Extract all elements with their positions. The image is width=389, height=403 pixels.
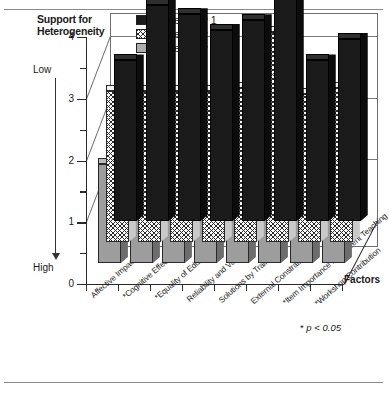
bar-side-face <box>169 0 176 221</box>
bar-front-face <box>242 20 265 221</box>
bar-seniority-1-group-2 <box>146 5 169 221</box>
bar-front-face <box>178 14 201 221</box>
bar-front-face <box>114 60 137 221</box>
bar-side-face <box>265 14 272 221</box>
bar-top-face <box>338 33 361 39</box>
bar-side-face <box>329 54 336 221</box>
bar-side-face <box>361 33 368 221</box>
bar-seniority-1-group-4 <box>210 30 233 221</box>
bar-top-face <box>306 54 329 60</box>
bar-front-face <box>146 5 169 221</box>
bar-seniority-1-group-3 <box>178 14 201 221</box>
bar-seniority-1-group-7 <box>306 60 329 221</box>
bar-front-face <box>210 30 233 221</box>
bar-side-face <box>233 24 240 221</box>
bar-front-face <box>338 39 361 221</box>
bar-side-face <box>137 54 144 221</box>
bar-seniority-1-group-1 <box>114 60 137 221</box>
bar-side-face <box>201 8 208 221</box>
bar-side-face <box>297 0 304 221</box>
bar-top-face <box>242 14 265 20</box>
bar-front-face <box>274 0 297 221</box>
bar-front-face <box>306 60 329 221</box>
bar-top-face <box>210 24 233 30</box>
bar-seniority-1-group-5 <box>242 20 265 221</box>
bar-top-face <box>178 8 201 14</box>
bar-seniority-1-group-6 <box>274 0 297 221</box>
bar-top-face <box>146 0 169 5</box>
bar-top-face <box>114 54 137 60</box>
bar-seniority-1-group-8 <box>338 39 361 221</box>
